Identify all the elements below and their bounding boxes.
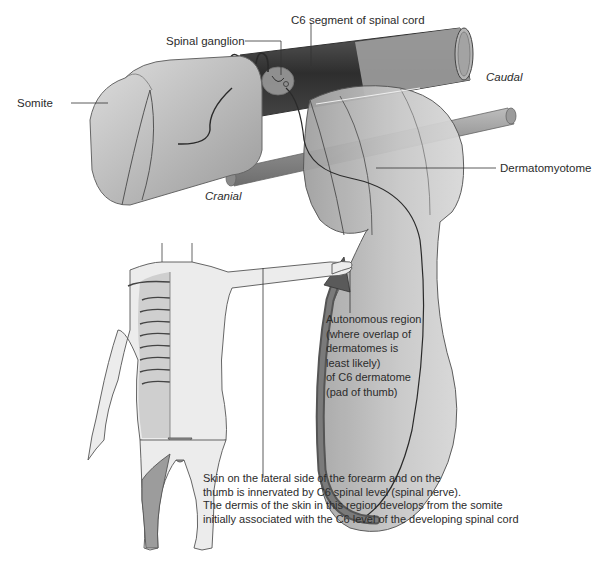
c6-segment-label: C6 segment of spinal cord (291, 13, 425, 27)
dermatomyotome (286, 86, 464, 532)
spinal-ganglion-label: Spinal ganglion (166, 34, 245, 48)
autonomous-region-label: Autonomous region (where overlap of derm… (326, 312, 421, 399)
somite-label: Somite (17, 96, 53, 110)
caudal-label: Caudal (486, 70, 522, 84)
cranial-label: Cranial (205, 189, 241, 203)
caption-text: Skin on the lateral side of the forearm … (203, 472, 519, 526)
dermatomyotome-label: Dermatomyotome (500, 161, 591, 175)
c6-dermatome-diagram: Spinal ganglion C6 segment of spinal cor… (0, 0, 604, 565)
